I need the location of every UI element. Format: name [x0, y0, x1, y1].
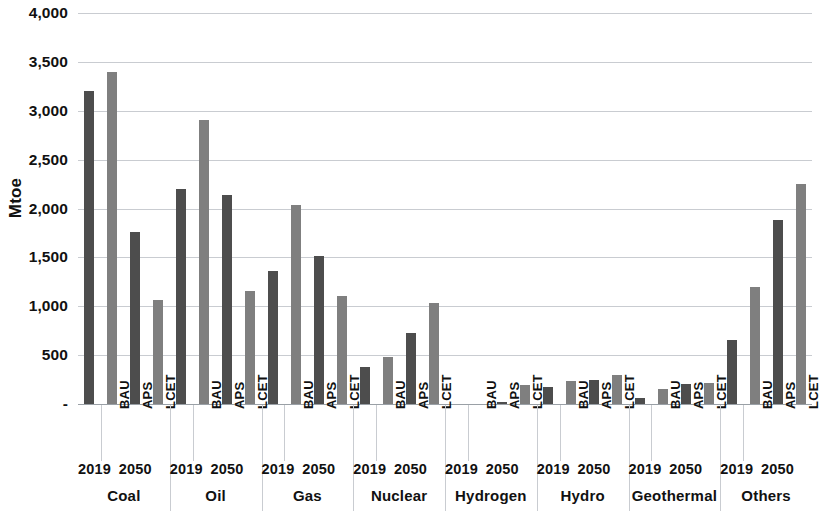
energy-mix-bar-chart: Mtoe -5001,0001,5002,0002,5003,0003,5004…	[0, 0, 819, 511]
year-label-2019: 2019	[262, 461, 285, 477]
category-label-geothermal: Geothermal	[629, 487, 721, 504]
scenario-label-lcet: LCET	[530, 353, 545, 409]
category-axis: BAUAPSLCET20192050CoalBAUAPSLCET20192050…	[78, 404, 812, 511]
y-tick-label: 3,000	[29, 102, 68, 120]
category-label-gas: Gas	[262, 487, 354, 504]
scenario-label-bau: BAU	[484, 353, 499, 409]
year-label-2019: 2019	[537, 461, 560, 477]
year-label-2019: 2019	[170, 461, 193, 477]
year-label-2019: 2019	[720, 461, 743, 477]
bar	[750, 287, 760, 404]
year-label-2050: 2050	[468, 461, 537, 477]
y-tick-label: 2,000	[29, 200, 68, 218]
scenario-label-aps: APS	[783, 353, 798, 409]
year-label-2050: 2050	[376, 461, 445, 477]
category-label-oil: Oil	[170, 487, 262, 504]
year-label-2019: 2019	[445, 461, 468, 477]
year-label-2050: 2050	[560, 461, 629, 477]
year-separator	[376, 405, 377, 461]
year-label-2050: 2050	[101, 461, 170, 477]
y-tick-label: 4,000	[29, 4, 68, 22]
scenario-label-bau: BAU	[209, 353, 224, 409]
y-axis-tick-labels: -5001,0001,5002,0002,5003,0003,5004,000	[0, 0, 78, 511]
category-label-nuclear: Nuclear	[353, 487, 445, 504]
y-tick-label: 500	[42, 346, 68, 364]
scenario-label-aps: APS	[416, 353, 431, 409]
category-label-others: Others	[720, 487, 812, 504]
category-label-coal: Coal	[78, 487, 170, 504]
bar	[658, 389, 668, 404]
plot-area	[78, 13, 812, 404]
scenario-label-bau: BAU	[576, 353, 591, 409]
bar	[566, 381, 576, 404]
y-tick-label: 1,000	[29, 297, 68, 315]
year-separator	[193, 405, 194, 461]
scenario-label-aps: APS	[140, 353, 155, 409]
bar	[107, 72, 117, 404]
scenario-label-bau: BAU	[117, 353, 132, 409]
year-label-2050: 2050	[284, 461, 353, 477]
year-label-2050: 2050	[743, 461, 812, 477]
y-tick-label: 3,500	[29, 53, 68, 71]
year-separator	[651, 405, 652, 461]
year-separator	[468, 405, 469, 461]
scenario-label-bau: BAU	[301, 353, 316, 409]
y-tick-label: 2,500	[29, 151, 68, 169]
y-tick-label: -	[63, 395, 68, 413]
year-label-2050: 2050	[193, 461, 262, 477]
y-tick-label: 1,500	[29, 248, 68, 266]
year-separator	[560, 405, 561, 461]
category-label-hydro: Hydro	[537, 487, 629, 504]
year-label-2019: 2019	[629, 461, 652, 477]
scenario-label-lcet: LCET	[439, 353, 454, 409]
scenario-label-lcet: LCET	[714, 353, 729, 409]
year-separator	[101, 405, 102, 461]
bar	[383, 357, 393, 404]
bar	[199, 120, 209, 404]
scenario-label-aps: APS	[691, 353, 706, 409]
scenario-label-aps: APS	[507, 353, 522, 409]
year-label-2019: 2019	[78, 461, 101, 477]
scenario-label-lcet: LCET	[163, 353, 178, 409]
scenario-label-aps: APS	[599, 353, 614, 409]
bar	[84, 91, 94, 404]
scenario-label-lcet: LCET	[347, 353, 362, 409]
scenario-label-aps: APS	[324, 353, 339, 409]
scenario-label-bau: BAU	[668, 353, 683, 409]
bar	[291, 205, 301, 404]
scenario-label-lcet: LCET	[806, 353, 819, 409]
scenario-label-lcet: LCET	[622, 353, 637, 409]
year-separator	[284, 405, 285, 461]
scenario-label-bau: BAU	[393, 353, 408, 409]
bar-series-container	[78, 13, 812, 404]
year-label-2050: 2050	[651, 461, 720, 477]
scenario-label-bau: BAU	[760, 353, 775, 409]
scenario-label-aps: APS	[232, 353, 247, 409]
scenario-label-lcet: LCET	[255, 353, 270, 409]
category-label-hydrogen: Hydrogen	[445, 487, 537, 504]
year-separator	[743, 405, 744, 461]
year-label-2019: 2019	[353, 461, 376, 477]
